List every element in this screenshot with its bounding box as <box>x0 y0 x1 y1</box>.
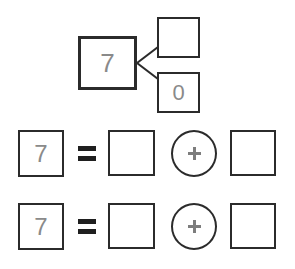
equation-1-total-value: 7 <box>34 142 47 166</box>
number-bond-part-bottom-box[interactable]: 0 <box>157 72 200 113</box>
equals-bar-top <box>78 146 96 151</box>
equation-1-total-box[interactable]: 7 <box>18 130 64 177</box>
plus-operator-circle-2 <box>171 203 217 250</box>
number-bond-whole-box[interactable]: 7 <box>78 36 137 90</box>
equals-sign-1 <box>76 130 98 177</box>
equation-2-addend-2-box[interactable] <box>230 203 276 249</box>
plus-operator-circle-1 <box>171 130 217 177</box>
equation-1-addend-1-box[interactable] <box>108 130 155 176</box>
number-bond-whole-value: 7 <box>100 50 114 76</box>
plus-icon <box>188 220 201 233</box>
plus-icon <box>188 147 201 160</box>
number-bond-part-bottom-value: 0 <box>172 82 184 104</box>
equation-row-1: 7 <box>0 128 295 188</box>
number-bond-part-top-box[interactable] <box>157 17 200 58</box>
worksheet-canvas: 7 0 7 7 <box>0 0 295 269</box>
equation-1-addend-2-box[interactable] <box>230 130 276 176</box>
equation-2-addend-1-box[interactable] <box>108 203 155 249</box>
equation-2-total-value: 7 <box>34 215 47 239</box>
equation-row-2: 7 <box>0 201 295 261</box>
equals-bar-bottom <box>78 156 96 161</box>
equals-sign-2 <box>76 203 98 250</box>
equals-bar-bottom <box>78 229 96 234</box>
equals-bar-top <box>78 219 96 224</box>
equation-2-total-box[interactable]: 7 <box>18 203 64 250</box>
